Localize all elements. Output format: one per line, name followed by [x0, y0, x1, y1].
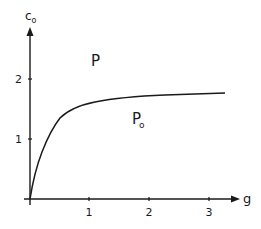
- region-label-po-sub: o: [139, 120, 145, 130]
- y-axis-arrow-icon: [27, 27, 34, 36]
- y-tick-label-1: 1: [15, 133, 22, 146]
- axes: [24, 30, 236, 205]
- x-tick-label-1: 1: [86, 206, 93, 219]
- y-tick-label-2: 2: [15, 73, 22, 86]
- ticks: [28, 79, 209, 201]
- x-tick-label-2: 2: [146, 206, 153, 219]
- boundary-curve: [30, 93, 225, 199]
- y-axis-label-sub: o: [32, 16, 37, 25]
- y-axis-label-main: c: [25, 9, 32, 23]
- y-axis-label: co: [25, 9, 37, 25]
- x-axis-arrow-icon: [231, 196, 240, 203]
- x-tick-label-3: 3: [206, 206, 213, 219]
- x-axis-label: g: [243, 191, 251, 206]
- chart: 1 2 3 1 2 co g P Po: [0, 0, 261, 229]
- region-label-p: P: [91, 52, 100, 70]
- region-label-po: Po: [132, 110, 145, 130]
